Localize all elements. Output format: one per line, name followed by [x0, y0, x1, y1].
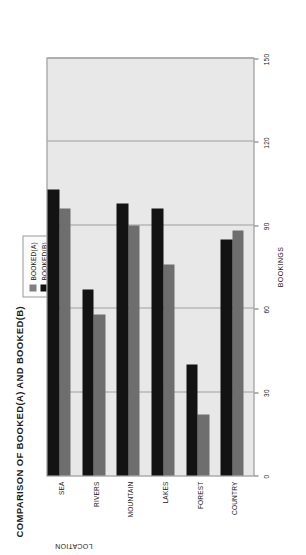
- value-axis: 0306090120150 BOOKINGS: [254, 57, 294, 476]
- value-axis-title: BOOKINGS: [276, 57, 283, 476]
- bar-lakes-bookeda[interactable]: [163, 264, 175, 475]
- category-axis-label-sea: SEA: [57, 481, 64, 495]
- value-axis-tick-mark: [254, 58, 258, 59]
- value-axis-tick-mark: [254, 141, 258, 142]
- category-axis-label-country: COUNTRY: [230, 481, 237, 514]
- value-axis-tick-mark: [254, 308, 258, 309]
- bar-sea-bookedb[interactable]: [47, 189, 59, 475]
- value-axis-tick-mark: [254, 392, 258, 393]
- bar-sea-bookeda[interactable]: [59, 208, 71, 475]
- bar-forest-bookeda[interactable]: [197, 414, 209, 475]
- bar-country-bookedb[interactable]: [220, 239, 232, 475]
- value-axis-tick-label: 90: [262, 222, 269, 230]
- category-axis-label-mountain: MOUNTAIN: [126, 481, 133, 517]
- gridline: [47, 140, 253, 141]
- chart-figure: COMPARISON OF BOOKED(A) AND BOOKED(B) BO…: [0, 0, 306, 555]
- bar-forest-bookedb[interactable]: [186, 364, 198, 475]
- category-axis-title: LOCATION: [54, 542, 92, 549]
- bar-rivers-bookedb[interactable]: [82, 289, 94, 475]
- legend-item-booked-a[interactable]: BOOKED(A): [27, 242, 38, 291]
- value-axis-tick-mark: [254, 475, 258, 476]
- plot-area: [46, 57, 254, 476]
- bar-lakes-bookedb[interactable]: [151, 208, 163, 475]
- value-axis-tick-label: 150: [262, 53, 269, 64]
- value-axis-tick-label: 30: [262, 389, 269, 397]
- gridline: [47, 57, 253, 58]
- chart-page: COMPARISON OF BOOKED(A) AND BOOKED(B) BO…: [0, 0, 306, 555]
- legend-label-booked-a: BOOKED(A): [29, 242, 36, 280]
- bar-rivers-bookeda[interactable]: [93, 314, 105, 475]
- value-axis-tick-label: 60: [262, 305, 269, 313]
- bar-country-bookeda[interactable]: [232, 230, 244, 475]
- value-axis-tick-label: 120: [262, 137, 269, 148]
- category-axis-label-lakes: LAKES: [161, 481, 168, 503]
- legend-swatch-icon-booked-a: [29, 284, 36, 291]
- bar-mountain-bookeda[interactable]: [128, 225, 140, 475]
- value-axis-tick-mark: [254, 225, 258, 226]
- bar-mountain-bookedb[interactable]: [116, 203, 128, 475]
- value-axis-tick-label: 0: [262, 474, 269, 478]
- gridline: [47, 224, 253, 225]
- category-axis: LOCATION COUNTRYFORESTLAKESMOUNTAINRIVER…: [0, 476, 208, 555]
- category-axis-label-forest: FOREST: [196, 481, 203, 509]
- category-axis-label-rivers: RIVERS: [92, 481, 99, 506]
